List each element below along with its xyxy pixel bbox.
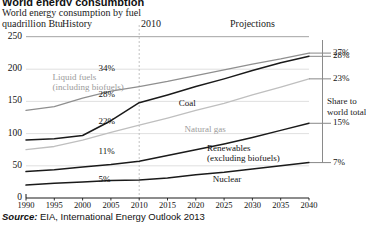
x-tick-label: 2025 (209, 200, 239, 210)
right-percent-label: 27% (333, 47, 350, 57)
x-tick-label: 2020 (181, 200, 211, 210)
y-tick-label: 200 (0, 63, 22, 73)
series-label-nuclear: Nuclear (213, 174, 241, 184)
source-prefix: Source: (2, 211, 37, 222)
series-label-coal: Coal (179, 98, 196, 108)
inline-percent-label: 22% (99, 116, 116, 126)
x-tick-label: 2015 (153, 200, 183, 210)
share-panel-label: Share to world total (327, 96, 366, 117)
x-tick-label: 1995 (39, 200, 69, 210)
right-percent-label: 7% (333, 157, 345, 167)
inline-percent-label: 11% (99, 146, 115, 156)
share-panel-divider (322, 40, 323, 163)
x-tick-label: 2040 (294, 200, 324, 210)
y-tick-label: 50 (0, 160, 22, 170)
y-tick-label: 100 (0, 128, 22, 138)
x-tick-label: 2030 (237, 200, 267, 210)
x-tick-label: 2000 (68, 200, 98, 210)
source-note: Source: EIA, International Energy Outloo… (2, 211, 205, 222)
right-percent-label: 23% (333, 73, 350, 83)
inline-percent-label: 5% (99, 174, 111, 184)
x-tick-label: 2005 (96, 200, 126, 210)
y-tick-label: 250 (0, 31, 22, 41)
share-panel-line2: world total (327, 107, 366, 118)
series-label-natural-gas: Natural gas (184, 124, 225, 134)
right-percent-label: 15% (333, 117, 350, 127)
x-tick-label: 1990 (11, 200, 41, 210)
x-tick-label: 2010 (124, 200, 154, 210)
source-text: EIA, International Energy Outlook 2013 (37, 211, 204, 222)
series-label-renewables: Renewables(excluding biofuels) (207, 143, 280, 163)
share-panel-line1: Share to (327, 96, 366, 107)
x-tick-label: 2035 (266, 200, 296, 210)
series-label-liquid-fuels: Liquid fuels(including biofuels) (53, 72, 124, 92)
y-tick-label: 150 (0, 95, 22, 105)
